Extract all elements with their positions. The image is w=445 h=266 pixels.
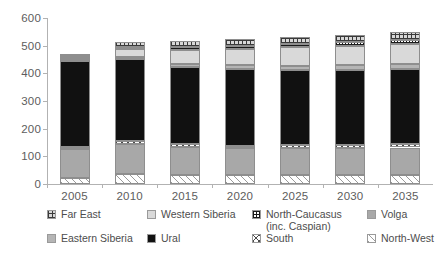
bar-segment-volga: [170, 147, 200, 175]
bar-segment-eastern-siberia: [115, 57, 145, 59]
legend-label: Far East: [61, 209, 101, 221]
legend-item-south[interactable]: South: [252, 233, 293, 245]
swatch-gray: [47, 234, 56, 243]
bar-segment-north-caucasus-inc-caspian: [280, 44, 310, 47]
legend-item-volga[interactable]: Volga: [367, 209, 407, 221]
bar-2005: [60, 18, 90, 184]
x-tick-mark: [157, 184, 158, 188]
y-tick-label: 0: [34, 178, 41, 190]
legend-label-wrap: North-Caucasus(inc. Caspian): [266, 209, 342, 232]
legend-item-western-siberia[interactable]: Western Siberia: [147, 209, 236, 221]
bar-segment-south: [60, 147, 90, 149]
bar-segment-far-east: [115, 42, 145, 47]
x-tick-mark: [268, 184, 269, 188]
bar-segment-western-siberia: [170, 50, 200, 64]
bar-segment-western-siberia: [280, 47, 310, 65]
legend-item-ural[interactable]: Ural: [147, 233, 180, 245]
bar-2025: [280, 18, 310, 184]
bar-segment-ural: [170, 67, 200, 144]
bar-segment-volga: [225, 148, 255, 175]
stacked-bar-chart: 0100200300400500600 20052010201520202025…: [0, 0, 445, 266]
swatch-black: [147, 234, 156, 243]
y-tick-label: 600: [21, 12, 41, 24]
y-tick-mark: [43, 73, 47, 74]
legend-label-wrap: Western Siberia: [161, 209, 236, 221]
legend-label-wrap: Far East: [61, 209, 101, 221]
bar-segment-ural: [280, 70, 310, 145]
bar-segment-south: [335, 145, 365, 148]
bar-segment-south: [170, 144, 200, 147]
bar-segment-south: [225, 146, 255, 149]
y-tick-label: 100: [21, 150, 41, 162]
x-axis-line: [47, 184, 433, 185]
bar-segment-far-east: [60, 54, 90, 56]
legend-item-north-caucasus[interactable]: North-Caucasus(inc. Caspian): [252, 209, 342, 232]
x-tick-mark: [378, 184, 379, 188]
bar-2035: [390, 18, 420, 184]
x-tick-label: 2030: [337, 190, 363, 202]
bar-segment-eastern-siberia: [280, 66, 310, 70]
bar-segment-eastern-siberia: [225, 65, 255, 69]
y-tick-label: 500: [21, 40, 41, 52]
bar-2020: [225, 18, 255, 184]
bar-segment-south: [280, 145, 310, 148]
legend-label: Volga: [381, 209, 407, 221]
bar-segment-volga: [115, 144, 145, 174]
bar-2010: [115, 18, 145, 184]
bar-segment-north-caucasus-inc-caspian: [225, 46, 255, 49]
legend-item-far-east[interactable]: Far East: [47, 209, 101, 221]
legend-label-wrap: Eastern Siberia: [61, 233, 133, 245]
bar-segment-north-west: [335, 175, 365, 184]
legend-label: Eastern Siberia: [61, 233, 133, 245]
y-tick-mark: [43, 46, 47, 47]
bar-segment-south: [115, 141, 145, 144]
bar-2030: [335, 18, 365, 184]
x-tick-mark: [47, 184, 48, 188]
legend-label-sub: (inc. Caspian): [266, 221, 342, 233]
x-tick-label: 2020: [227, 190, 253, 202]
legend-label-wrap: Ural: [161, 233, 180, 245]
x-tick-mark: [102, 184, 103, 188]
y-tick-label: 200: [21, 123, 41, 135]
swatch-fine-grid-pattern: [252, 210, 261, 219]
legend-label: Western Siberia: [161, 209, 236, 221]
legend-item-eastern-siberia[interactable]: Eastern Siberia: [47, 233, 133, 245]
legend-label: South: [266, 233, 293, 245]
bar-segment-volga: [335, 148, 365, 175]
y-tick-mark: [43, 18, 47, 19]
legend-item-north-west[interactable]: North-West: [367, 233, 434, 245]
bar-segment-eastern-siberia: [390, 64, 420, 69]
x-tick-mark: [323, 184, 324, 188]
bar-segment-eastern-siberia: [170, 64, 200, 67]
bar-segment-north-caucasus-inc-caspian: [390, 40, 420, 44]
bar-segment-ural: [225, 69, 255, 145]
x-tick-mark: [212, 184, 213, 188]
x-tick-label: 2015: [172, 190, 198, 202]
bar-segment-western-siberia: [115, 49, 145, 57]
legend-label: North-Caucasus: [266, 209, 342, 221]
bar-segment-volga: [390, 148, 420, 175]
bar-segment-far-east: [170, 41, 200, 47]
bar-segment-north-west: [60, 178, 90, 184]
y-tick-mark: [43, 101, 47, 102]
bar-segment-north-west: [115, 174, 145, 184]
bar-segment-north-caucasus-inc-caspian: [170, 47, 200, 50]
x-tick-label: 2025: [282, 190, 308, 202]
swatch-light-gray: [147, 210, 156, 219]
y-tick-mark: [43, 156, 47, 157]
y-tick-mark: [43, 129, 47, 130]
y-tick-label: 300: [21, 95, 41, 107]
bar-segment-far-east: [280, 37, 310, 44]
bar-segment-ural: [335, 70, 365, 145]
bar-segment-ural: [60, 61, 90, 147]
bar-segment-far-east: [225, 39, 255, 46]
y-tick-label: 400: [21, 67, 41, 79]
x-tick-label: 2010: [117, 190, 143, 202]
bar-segment-volga: [60, 149, 90, 178]
legend-label-wrap: North-West: [381, 233, 434, 245]
legend-label: Ural: [161, 233, 180, 245]
bar-segment-ural: [390, 69, 420, 144]
bar-segment-eastern-siberia: [335, 65, 365, 70]
bar-segment-western-siberia: [335, 46, 365, 65]
swatch-crosshatch-pattern: [252, 234, 261, 243]
